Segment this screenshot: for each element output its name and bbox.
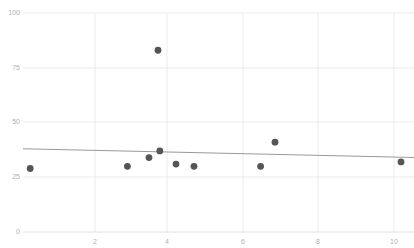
data-point[interactable]	[27, 165, 34, 172]
y-tick-label-100: 100	[8, 9, 20, 16]
scatter-chart: 100 75 50 25 0 2 4 6 8 10	[0, 0, 414, 248]
data-point[interactable]	[156, 148, 163, 155]
data-point[interactable]	[146, 154, 153, 161]
data-point[interactable]	[257, 163, 264, 170]
x-tick-label-4: 4	[165, 238, 169, 245]
data-point[interactable]	[173, 161, 180, 168]
x-tick-label-8: 8	[316, 238, 320, 245]
data-point[interactable]	[191, 163, 198, 170]
data-point[interactable]	[124, 163, 131, 170]
plot-svg: 100 75 50 25 0 2 4 6 8 10	[0, 0, 414, 248]
data-point[interactable]	[155, 47, 162, 54]
x-tick-label-6: 6	[241, 238, 245, 245]
y-tick-label-75: 75	[12, 64, 20, 71]
y-tick-label-25: 25	[12, 173, 20, 180]
x-gridlines	[95, 13, 394, 232]
trendline-path	[23, 149, 414, 158]
x-tick-label-2: 2	[93, 238, 97, 245]
data-point[interactable]	[272, 139, 279, 146]
y-gridlines	[23, 13, 414, 177]
trendline	[23, 149, 414, 158]
x-axis-tick-labels: 2 4 6 8 10	[93, 238, 398, 245]
y-axis-tick-labels: 100 75 50 25 0	[8, 9, 20, 235]
data-point[interactable]	[398, 159, 405, 166]
y-tick-label-0: 0	[16, 228, 20, 235]
y-tick-label-50: 50	[12, 118, 20, 125]
x-tick-label-10: 10	[390, 238, 398, 245]
